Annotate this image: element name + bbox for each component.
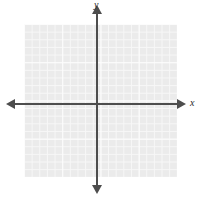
coordinate-plane-figure: y x: [0, 0, 203, 198]
graph-paper-grid: [24, 24, 177, 177]
arrow-right-icon: [177, 99, 186, 109]
arrow-down-icon: [92, 185, 102, 194]
y-axis-label: y: [94, 0, 98, 10]
x-axis-label: x: [190, 98, 194, 108]
y-axis-line: [96, 8, 98, 190]
arrow-left-icon: [6, 99, 15, 109]
